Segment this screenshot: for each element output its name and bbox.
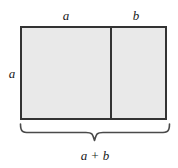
top-width-label-b: b — [125, 9, 147, 22]
vertical-divider-line — [110, 26, 112, 120]
composite-rectangle — [20, 26, 167, 120]
area-diagram-figure: a b a a + b — [0, 0, 178, 168]
total-width-label: a + b — [60, 149, 130, 162]
left-height-label-a: a — [4, 67, 20, 80]
top-width-label-a: a — [55, 9, 77, 22]
